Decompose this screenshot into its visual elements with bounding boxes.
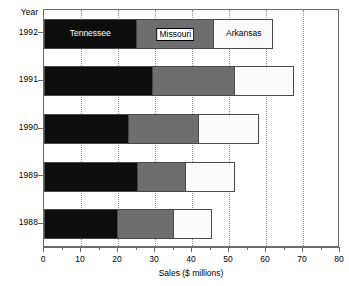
x-tick-20 bbox=[117, 247, 118, 252]
bar-segment-tennessee-1990 bbox=[44, 114, 130, 144]
bar-segment-tennessee-1988 bbox=[44, 209, 119, 239]
x-tick-label-50: 50 bbox=[223, 254, 232, 264]
y-tick-1989 bbox=[38, 175, 43, 176]
x-tick-50 bbox=[228, 247, 229, 252]
bar-segment-missouri-1989 bbox=[137, 162, 186, 192]
bar-segment-arkansas-1989 bbox=[185, 162, 234, 192]
x-tick-minor-75 bbox=[321, 247, 322, 250]
x-tick-minor-45 bbox=[210, 247, 211, 250]
bar-segment-missouri-1991 bbox=[152, 66, 234, 96]
x-tick-30 bbox=[154, 247, 155, 252]
bar-segment-tennessee-1989 bbox=[44, 162, 139, 192]
bar-series-group: TennesseeMissouriArkansas bbox=[44, 10, 338, 246]
x-tick-label-20: 20 bbox=[112, 254, 121, 264]
x-tick-label-0: 0 bbox=[41, 254, 46, 264]
bar-row-1989 bbox=[44, 162, 338, 192]
bar-row-1988 bbox=[44, 209, 338, 239]
x-tick-label-10: 10 bbox=[75, 254, 84, 264]
y-tick-1991 bbox=[38, 80, 43, 81]
x-tick-40 bbox=[191, 247, 192, 252]
x-tick-60 bbox=[265, 247, 266, 252]
x-tick-10 bbox=[80, 247, 81, 252]
bar-segment-arkansas-1990 bbox=[198, 114, 258, 144]
x-tick-label-80: 80 bbox=[334, 254, 343, 264]
bar-row-1992: TennesseeMissouriArkansas bbox=[44, 19, 338, 49]
x-tick-80 bbox=[339, 247, 340, 252]
bar-row-1991 bbox=[44, 66, 338, 96]
bar-segment-tennessee-1991 bbox=[44, 66, 154, 96]
bar-segment-arkansas-1988 bbox=[173, 209, 213, 239]
x-tick-minor-65 bbox=[284, 247, 285, 250]
x-tick-70 bbox=[302, 247, 303, 252]
plot-area: TennesseeMissouriArkansas bbox=[43, 9, 339, 247]
y-tick-1988 bbox=[38, 223, 43, 224]
x-tick-minor-55 bbox=[247, 247, 248, 250]
bar-segment-arkansas-1991 bbox=[234, 66, 294, 96]
bar-segment-missouri-1988 bbox=[117, 209, 174, 239]
bar-row-1990 bbox=[44, 114, 338, 144]
stacked-bar-chart: Year 19921991199019891988 TennesseeMisso… bbox=[0, 0, 349, 286]
bar-label-arkansas: Arkansas bbox=[226, 28, 261, 38]
x-tick-0 bbox=[43, 247, 44, 252]
bar-label-tennessee: Tennessee bbox=[70, 28, 111, 38]
x-tick-label-40: 40 bbox=[186, 254, 195, 264]
x-tick-label-60: 60 bbox=[260, 254, 269, 264]
y-tick-label-1992: 1992 bbox=[0, 28, 38, 37]
y-tick-label-1988: 1988 bbox=[0, 218, 38, 227]
x-tick-label-30: 30 bbox=[149, 254, 158, 264]
y-tick-1990 bbox=[38, 128, 43, 129]
y-tick-1992 bbox=[38, 32, 43, 33]
x-tick-minor-15 bbox=[99, 247, 100, 250]
y-tick-label-1991: 1991 bbox=[0, 75, 38, 84]
x-tick-minor-5 bbox=[62, 247, 63, 250]
x-tick-minor-35 bbox=[173, 247, 174, 250]
y-tick-label-1990: 1990 bbox=[0, 123, 38, 132]
bar-label-missouri: Missouri bbox=[157, 28, 195, 41]
bar-segment-missouri-1990 bbox=[128, 114, 199, 144]
x-tick-minor-25 bbox=[136, 247, 137, 250]
y-tick-label-1989: 1989 bbox=[0, 171, 38, 180]
x-axis-title: Sales ($ millions) bbox=[43, 268, 339, 278]
y-axis-tick-labels: 19921991199019891988 bbox=[0, 0, 38, 250]
x-tick-label-70: 70 bbox=[297, 254, 306, 264]
